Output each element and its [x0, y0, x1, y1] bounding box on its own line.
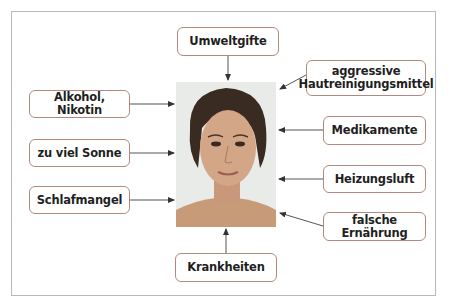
- factor-krankheiten: Krankheiten: [175, 253, 277, 282]
- factor-label-line2: Hautreinigungsmittel: [299, 78, 434, 91]
- face-illustration: [176, 82, 276, 227]
- factor-medikamente: Medikamente: [323, 116, 426, 145]
- factor-schlafmangel: Schlafmangel: [29, 186, 130, 214]
- portrait-photo: [176, 82, 276, 227]
- factor-label: Alkohol, Nikotin: [30, 91, 129, 117]
- factor-label: falsche Ernährung: [324, 214, 425, 240]
- factor-zu-viel-sonne: zu viel Sonne: [29, 139, 130, 167]
- factor-aggressive-hautreinigungsmittel: aggressive Hautreinigungsmittel: [306, 60, 426, 96]
- factor-falsche-ernaehrung: falsche Ernährung: [323, 212, 426, 241]
- factor-label: Umweltgifte: [189, 35, 266, 48]
- factor-label: Heizungsluft: [335, 173, 415, 186]
- factor-label: zu viel Sonne: [38, 147, 122, 160]
- factor-heizungsluft: Heizungsluft: [323, 165, 426, 193]
- factor-label: Krankheiten: [187, 261, 264, 274]
- factor-label: Medikamente: [332, 124, 418, 137]
- factor-label: Schlafmangel: [37, 194, 123, 207]
- factor-umweltgifte: Umweltgifte: [177, 27, 279, 56]
- factor-alkohol-nikotin: Alkohol, Nikotin: [29, 90, 130, 118]
